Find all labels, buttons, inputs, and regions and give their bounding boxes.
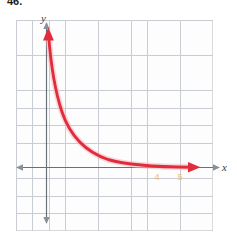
- x-axis-arrow-right: [213, 164, 220, 170]
- x-tick-label-4: 4: [151, 172, 163, 182]
- curve-arrow-right: [188, 162, 201, 172]
- exponential-decay-graph-figure: y x 4 5: [0, 0, 237, 249]
- decay-curve-group: [43, 28, 201, 173]
- decay-curve-halo: [49, 35, 191, 167]
- graph-plot-layer: [0, 0, 237, 249]
- y-axis-label: y: [41, 12, 46, 24]
- y-axis-arrow-down: [43, 217, 49, 224]
- curve-arrow-up: [43, 28, 54, 41]
- x-tick-label-5: 5: [174, 172, 186, 182]
- decay-curve: [49, 35, 191, 167]
- axes-group: [16, 22, 220, 224]
- x-axis-label: x: [222, 161, 227, 173]
- x-axis-arrow-left: [16, 164, 23, 170]
